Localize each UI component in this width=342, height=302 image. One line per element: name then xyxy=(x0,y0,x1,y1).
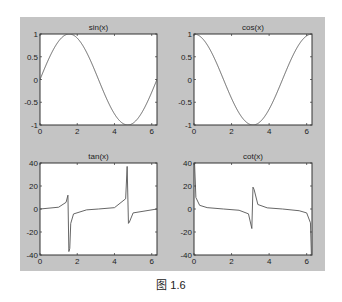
y-tick-label: -1 xyxy=(31,121,39,130)
x-tick-label: 6 xyxy=(304,127,309,136)
x-tick-label: 2 xyxy=(229,257,234,266)
x-tick-label: 0 xyxy=(192,127,197,136)
y-tick-label: -1 xyxy=(185,121,193,130)
y-tick-label: 0.5 xyxy=(27,53,39,62)
subplot-grid: sin(x)0246-1-0.500.51cos(x)0246-1-0.500.… xyxy=(0,0,342,302)
subplot-tan: tan(x)0246-40-2002040 xyxy=(26,152,157,266)
y-tick-label: 20 xyxy=(29,182,38,191)
axes-box xyxy=(194,163,312,255)
y-tick-label: -20 xyxy=(26,228,38,237)
y-tick-label: 0 xyxy=(34,205,39,214)
subplot-sin: sin(x)0246-1-0.500.51 xyxy=(24,23,157,136)
subplot-title: sin(x) xyxy=(89,23,109,32)
x-tick-label: 2 xyxy=(75,257,80,266)
y-tick-label: 0 xyxy=(188,76,193,85)
subplot-cot: cot(x)0246-40-2002040 xyxy=(180,152,312,266)
x-tick-label: 4 xyxy=(267,127,272,136)
y-tick-label: 40 xyxy=(29,159,38,168)
subplot-title: tan(x) xyxy=(88,152,109,161)
subplot-title: cot(x) xyxy=(243,152,263,161)
x-tick-label: 6 xyxy=(149,257,154,266)
y-tick-label: 1 xyxy=(188,30,193,39)
x-tick-label: 6 xyxy=(304,257,309,266)
x-tick-label: 6 xyxy=(149,127,154,136)
y-tick-label: 0 xyxy=(188,205,193,214)
y-tick-label: 20 xyxy=(183,182,192,191)
y-tick-label: 1 xyxy=(34,30,39,39)
y-tick-label: -40 xyxy=(26,251,38,260)
x-tick-label: 4 xyxy=(112,127,117,136)
subplot-cos: cos(x)0246-1-0.500.51 xyxy=(178,23,312,136)
x-tick-label: 2 xyxy=(229,127,234,136)
y-tick-label: -40 xyxy=(180,251,192,260)
y-tick-label: 0 xyxy=(34,76,39,85)
x-tick-label: 2 xyxy=(75,127,80,136)
x-tick-label: 0 xyxy=(192,257,197,266)
subplot-title: cos(x) xyxy=(242,23,264,32)
y-tick-label: -20 xyxy=(180,228,192,237)
y-tick-label: 0.5 xyxy=(181,53,193,62)
x-tick-label: 4 xyxy=(112,257,117,266)
x-tick-label: 4 xyxy=(267,257,272,266)
y-tick-label: 40 xyxy=(183,159,192,168)
y-tick-label: -0.5 xyxy=(24,98,38,107)
axes-box xyxy=(194,34,312,125)
x-tick-label: 0 xyxy=(38,257,43,266)
figure-caption: 图 1.6 xyxy=(0,276,342,292)
y-tick-label: -0.5 xyxy=(178,98,192,107)
x-tick-label: 0 xyxy=(38,127,43,136)
